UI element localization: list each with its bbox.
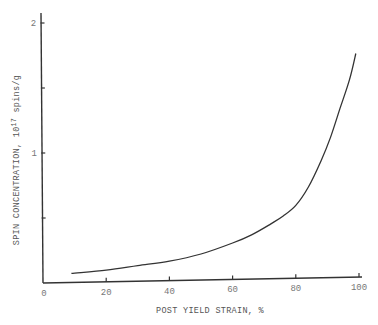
x-tick-label: 20 — [101, 288, 112, 298]
axes — [41, 13, 362, 283]
x-tick-label: 80 — [290, 284, 301, 294]
x-axis — [43, 277, 362, 283]
x-axis-title: POST YIELD STRAIN, % — [156, 306, 265, 316]
y-tick-label: 1 — [32, 149, 37, 159]
data-curve — [71, 54, 355, 274]
spin-concentration-chart: 12 020406080100 POST YIELD STRAIN, % SPI… — [0, 0, 378, 325]
x-ticks: 020406080100 — [41, 273, 367, 299]
x-tick-label: 40 — [164, 287, 175, 297]
y-axis-title-main: SPIN CONCENTRATION, 10 — [12, 126, 22, 245]
x-tick-label: 0 — [41, 289, 46, 299]
y-axis-title-unit: spins/g — [12, 75, 22, 118]
x-tick-label: 100 — [351, 283, 367, 293]
y-axis-title-exponent: 17 — [11, 118, 18, 126]
y-ticks: 12 — [31, 19, 46, 218]
y-axis — [41, 13, 43, 283]
y-tick-label: 2 — [31, 19, 36, 29]
x-tick-label: 60 — [227, 285, 238, 295]
y-axis-title: SPIN CONCENTRATION, 1017 spins/g — [11, 75, 22, 245]
